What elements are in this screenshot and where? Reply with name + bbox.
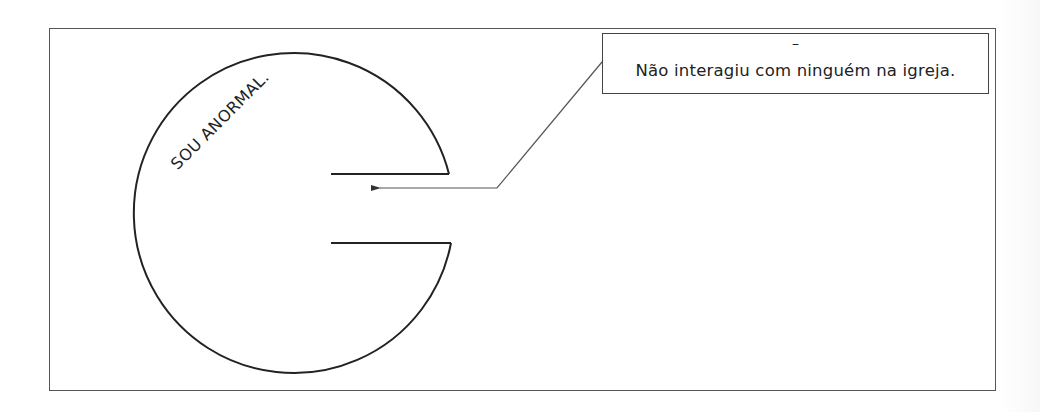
callout-blank-dash: – — [603, 36, 988, 50]
leader-arrow — [380, 62, 602, 188]
notched-circle-shape — [134, 53, 451, 373]
callout-text: Não interagiu com ninguém na igreja. — [603, 61, 988, 80]
callout-box: – Não interagiu com ninguém na igreja. — [602, 33, 989, 94]
